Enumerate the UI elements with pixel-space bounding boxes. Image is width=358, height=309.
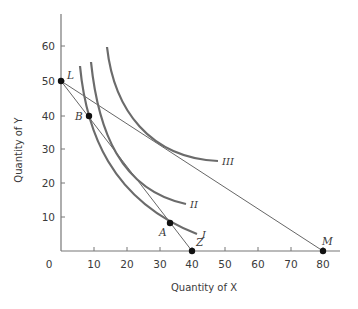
- point-label-b: B: [74, 110, 83, 122]
- x-tick-label: 30: [153, 258, 166, 270]
- x-tick-label: 70: [284, 258, 297, 270]
- y-tick-label: 20: [42, 177, 55, 189]
- point-a: [167, 220, 173, 226]
- budget-line-lz: [61, 81, 192, 251]
- x-axis-title: Quantity of X: [171, 282, 237, 293]
- indifference-curve-iii: [107, 47, 218, 161]
- indifference-curve-diagram: 10 20 30 40 50 60 0 10 20 30 40 50 60 70…: [0, 0, 358, 309]
- indifference-curve-i: [80, 66, 197, 234]
- y-tick-label: 40: [42, 110, 55, 122]
- indifference-curve-ii: [91, 62, 186, 204]
- point-label-l: L: [66, 69, 74, 81]
- x-tick-label: 80: [316, 258, 329, 270]
- x-tick-label: 60: [251, 258, 264, 270]
- origin-label: 0: [46, 258, 53, 270]
- point-label-a: A: [158, 226, 167, 238]
- point-label-m: M: [321, 235, 333, 247]
- y-tick-label: 30: [42, 143, 55, 155]
- y-tick-label: 50: [42, 75, 55, 87]
- y-tick-label: 60: [42, 40, 55, 52]
- x-tick-label: 10: [87, 258, 100, 270]
- curve-label-iii: III: [221, 156, 235, 167]
- budget-line-lm: [61, 81, 323, 251]
- point-b: [86, 113, 92, 119]
- y-tick-label: 10: [42, 211, 55, 223]
- x-tick-label: 50: [218, 258, 231, 270]
- point-label-z: Z: [195, 236, 204, 248]
- x-tick-label: 20: [120, 258, 133, 270]
- point-m: [320, 248, 326, 254]
- y-axis-title: Quantity of Y: [13, 116, 24, 182]
- point-z: [189, 248, 195, 254]
- x-tick-label: 40: [185, 258, 198, 270]
- curve-label-ii: II: [189, 199, 199, 210]
- point-l: [58, 78, 64, 84]
